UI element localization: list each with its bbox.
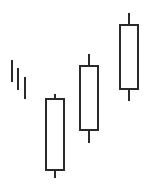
candle-3 <box>120 13 138 101</box>
candlestick-chart <box>0 0 149 185</box>
candle-body <box>120 25 138 89</box>
candle-2 <box>80 54 98 143</box>
candle-body <box>80 66 98 130</box>
descending-tick-lines <box>12 60 25 99</box>
candles-group <box>46 13 138 178</box>
candle-1 <box>46 94 64 178</box>
candle-body <box>46 99 64 170</box>
